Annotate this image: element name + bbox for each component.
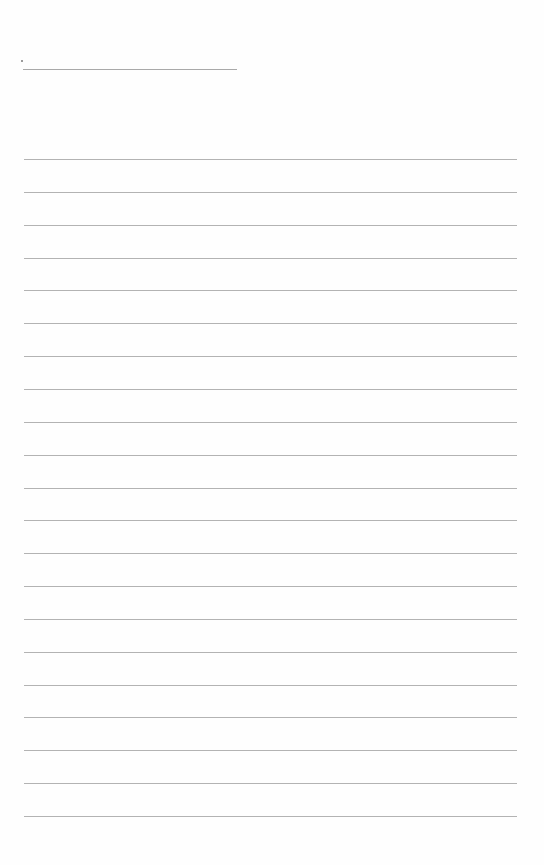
lined-paper-page (0, 0, 544, 865)
marker-dot (21, 60, 23, 62)
ruled-line (24, 225, 517, 226)
ruled-line (24, 323, 517, 324)
ruled-line (24, 455, 517, 456)
ruled-line (24, 422, 517, 423)
ruled-line (24, 389, 517, 390)
ruled-line (24, 717, 517, 718)
ruled-line (24, 783, 517, 784)
ruled-line (24, 290, 517, 291)
ruled-line (24, 619, 517, 620)
ruled-line (24, 685, 517, 686)
ruled-line (24, 586, 517, 587)
ruled-line (24, 159, 517, 160)
ruled-line (24, 816, 517, 817)
ruled-line (24, 520, 517, 521)
ruled-line (24, 750, 517, 751)
ruled-line (24, 258, 517, 259)
header-name-line (23, 69, 237, 70)
ruled-line (24, 488, 517, 489)
ruled-line (24, 553, 517, 554)
ruled-line (24, 356, 517, 357)
ruled-line (24, 192, 517, 193)
ruled-line (24, 652, 517, 653)
